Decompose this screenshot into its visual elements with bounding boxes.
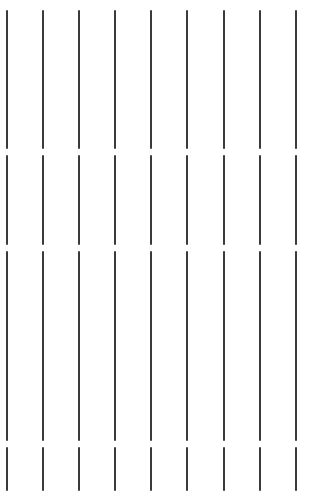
vertical-line-segment [295, 447, 297, 491]
vertical-line-segment [259, 447, 261, 491]
vertical-line-segment [186, 155, 188, 245]
vertical-line-segment [150, 447, 152, 491]
vertical-line-segment [223, 10, 225, 149]
vertical-line-segment [42, 10, 44, 149]
vertical-line-segment [114, 155, 116, 245]
vertical-line-segment [6, 10, 8, 149]
vertical-line-segment [150, 155, 152, 245]
vertical-line-segment [78, 155, 80, 245]
vertical-line-segment [78, 10, 80, 149]
vertical-line-segment [114, 10, 116, 149]
vertical-line-segment [6, 251, 8, 441]
vertical-line-segment [150, 10, 152, 149]
vertical-line-segment [6, 155, 8, 245]
vertical-line-segment [42, 447, 44, 491]
vertical-line-segment [114, 447, 116, 491]
vertical-line-segment [42, 155, 44, 245]
vertical-line-segment [259, 155, 261, 245]
vertical-line-segment [295, 251, 297, 441]
vertical-line-segment [223, 155, 225, 245]
vertical-line-segment [295, 10, 297, 149]
ruled-lines-canvas [0, 0, 316, 494]
vertical-line-segment [295, 155, 297, 245]
vertical-line-segment [78, 251, 80, 441]
vertical-line-segment [259, 10, 261, 149]
vertical-line-segment [78, 447, 80, 491]
vertical-line-segment [223, 251, 225, 441]
vertical-line-segment [259, 251, 261, 441]
vertical-line-segment [6, 447, 8, 491]
vertical-line-segment [114, 251, 116, 441]
vertical-line-segment [186, 251, 188, 441]
vertical-line-segment [42, 251, 44, 441]
vertical-line-segment [186, 447, 188, 491]
vertical-line-segment [223, 447, 225, 491]
vertical-line-segment [150, 251, 152, 441]
vertical-line-segment [186, 10, 188, 149]
